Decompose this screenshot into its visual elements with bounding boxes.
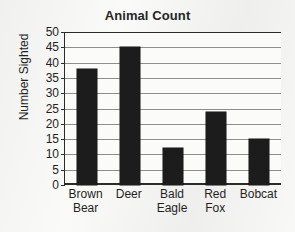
y-tick-label: 40 <box>46 57 59 69</box>
y-tick-label: 45 <box>46 41 59 53</box>
plot-area: 05101520253035404550 <box>64 32 281 185</box>
y-tick-label: 0 <box>52 179 59 191</box>
y-tick-label: 50 <box>46 26 59 38</box>
y-axis-title: Number Sighted <box>17 12 31 142</box>
y-tick-label: 25 <box>46 103 59 115</box>
y-tick-label: 5 <box>52 164 59 176</box>
bar-series <box>65 32 281 185</box>
bar <box>206 112 226 185</box>
chart-title: Animal Count <box>0 8 295 23</box>
bar <box>163 148 183 185</box>
x-axis-label: Deer <box>107 188 150 202</box>
bar <box>249 139 269 185</box>
y-tick-label: 30 <box>46 87 59 99</box>
bar <box>120 47 140 185</box>
bar <box>77 69 97 185</box>
x-axis-label: Brown Bear <box>64 188 107 215</box>
chart-page: Animal Count Number Sighted 051015202530… <box>0 0 295 232</box>
tick-mark-0 <box>61 185 65 186</box>
y-tick-label: 10 <box>46 148 59 160</box>
x-axis-label: Bobcat <box>237 188 280 202</box>
x-axis-label: Bald Eagle <box>150 188 193 215</box>
x-axis-category-labels: Brown BearDeerBald EagleRed FoxBobcat <box>64 188 281 228</box>
x-axis-label: Red Fox <box>194 188 237 215</box>
y-tick-label: 15 <box>46 133 59 145</box>
y-tick-label: 35 <box>46 72 59 84</box>
y-tick-label: 20 <box>46 118 59 130</box>
